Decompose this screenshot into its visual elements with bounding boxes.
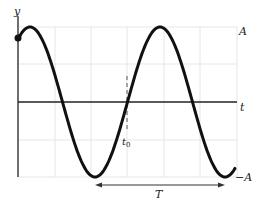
period-arrow [95,183,225,188]
sine-wave-diagram: y A t −A t0 T [0,0,262,206]
t-axis-label: t [240,101,245,114]
arrow-right-icon [218,183,225,188]
t0-label: t0 [122,136,131,149]
y-axis-label: y [13,5,21,18]
amplitude-top-label: A [238,25,247,38]
start-point-dot [15,35,22,42]
arrow-left-icon [95,183,102,188]
period-label: T [155,188,164,201]
amplitude-bottom-label: −A [235,171,252,184]
